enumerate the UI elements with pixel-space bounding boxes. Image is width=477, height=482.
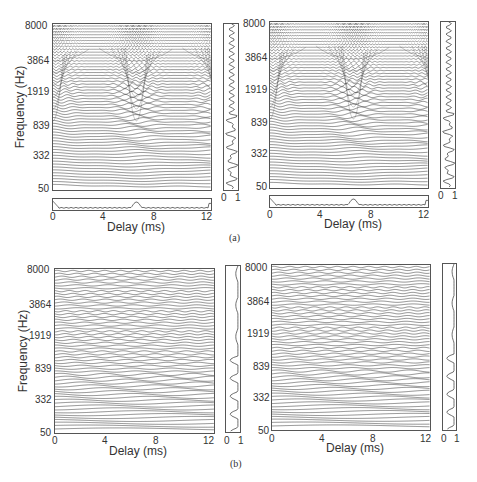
ytick: 332 [253, 393, 270, 403]
x-axis-label: Delay (ms) [324, 217, 382, 231]
xtick: 0 [50, 212, 56, 222]
side-tick: 1 [454, 434, 460, 444]
xtick: 12 [203, 436, 214, 446]
side-tick: 0 [441, 434, 447, 444]
y-axis-label: Frequency (Hz) [13, 62, 27, 152]
xtick: 12 [418, 210, 429, 220]
side-panel-a-right [440, 21, 456, 189]
summary-strip-a-left [52, 198, 212, 211]
ytick: 332 [35, 395, 52, 405]
ytick: 8000 [27, 265, 49, 275]
ytick: 3864 [27, 56, 49, 66]
x-axis-label: Delay (ms) [109, 444, 167, 458]
ytick: 1919 [29, 331, 51, 341]
side-tick: 1 [235, 193, 241, 203]
correlogram-a-left [53, 24, 211, 190]
xtick: 0 [269, 434, 275, 444]
xtick: 0 [267, 210, 273, 220]
plot-b-left [54, 268, 215, 434]
side-tick: 0 [221, 193, 227, 203]
ytick: 839 [253, 362, 270, 372]
x-axis-label: Delay (ms) [107, 220, 165, 234]
ytick: 1919 [27, 87, 49, 97]
ytick: 50 [258, 426, 269, 436]
plot-a-left [52, 23, 212, 191]
correlogram-b-right [272, 265, 430, 430]
ytick: 839 [251, 118, 268, 128]
caption-b: (b) [230, 458, 242, 469]
correlogram-a-right [270, 22, 428, 188]
side-panel-b-right [442, 263, 457, 431]
ytick: 839 [33, 121, 50, 131]
xtick: 12 [201, 212, 212, 222]
ytick: 1919 [245, 85, 267, 95]
ytick: 8000 [243, 19, 265, 29]
side-panel-a-left [223, 23, 239, 191]
side-tick: 1 [452, 191, 458, 201]
ytick: 50 [40, 428, 51, 438]
ytick: 839 [35, 364, 52, 374]
ytick: 332 [251, 149, 268, 159]
caption-a: (a) [229, 232, 240, 243]
ytick: 332 [33, 151, 50, 161]
xtick: 0 [52, 436, 58, 446]
plot-b-right [271, 264, 431, 431]
ytick: 3864 [245, 53, 267, 63]
side-tick: 1 [238, 436, 244, 446]
ytick: 3864 [247, 297, 269, 307]
ytick: 1919 [247, 329, 269, 339]
ytick: 3864 [29, 300, 51, 310]
y-axis-label: Frequency (Hz) [16, 306, 30, 396]
summary-strip-a-right [269, 195, 429, 208]
xtick: 12 [420, 434, 431, 444]
xtick: 4 [319, 434, 325, 444]
side-panel-b-left [225, 265, 241, 433]
xtick: 4 [100, 212, 106, 222]
correlogram-b-left [55, 269, 214, 433]
side-tick: 0 [224, 436, 230, 446]
plot-a-right [269, 21, 429, 189]
xtick: 4 [102, 436, 108, 446]
ytick: 8000 [25, 21, 47, 31]
x-axis-label: Delay (ms) [326, 441, 384, 455]
ytick: 50 [256, 182, 267, 192]
side-tick: 0 [438, 191, 444, 201]
xtick: 4 [317, 210, 323, 220]
ytick: 8000 [245, 263, 267, 273]
ytick: 50 [38, 184, 49, 194]
